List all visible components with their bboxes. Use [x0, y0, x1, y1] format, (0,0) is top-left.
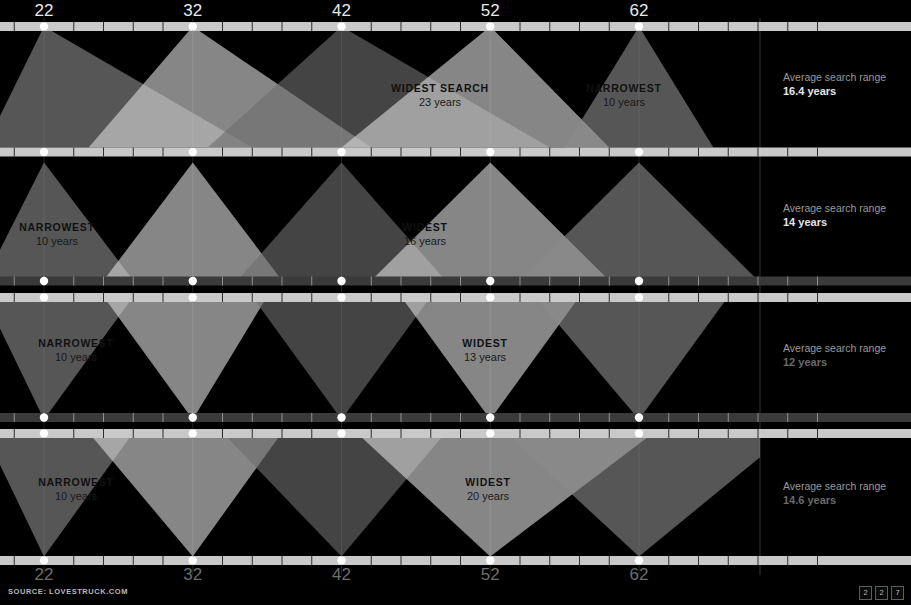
decade-marker-dot	[635, 556, 643, 564]
decade-marker-dot	[40, 429, 48, 437]
decade-marker-dot	[189, 429, 197, 437]
infographic-stage: 22324252622232425262WIDEST SEARCH23 year…	[0, 0, 911, 605]
decade-marker-dot	[189, 413, 197, 421]
page-digit: 7	[891, 586, 904, 600]
decade-marker-dot	[635, 22, 643, 30]
decade-marker-dot	[486, 556, 494, 564]
callout-title: NARROWEST	[38, 337, 114, 349]
decade-marker-dot	[337, 22, 345, 30]
decade-marker-dot	[486, 148, 494, 156]
callout-value: 13 years	[464, 351, 507, 363]
decade-marker-dot	[337, 148, 345, 156]
decade-marker-dot	[189, 556, 197, 564]
average-search-range-value: 12 years	[783, 356, 827, 368]
decade-marker-dot	[635, 413, 643, 421]
axis-tick-label-top: 32	[183, 1, 202, 20]
axis-tick-label-bottom: 62	[630, 565, 649, 584]
decade-marker-dot	[486, 413, 494, 421]
callout-value: 20 years	[467, 490, 510, 502]
decade-marker-dot	[189, 277, 197, 285]
callout-title: WIDEST	[465, 476, 510, 488]
callout-value: 16 years	[404, 235, 447, 247]
axis-between-3-4-dark	[0, 413, 911, 422]
axis-between-3-4	[0, 429, 911, 438]
age-range-chart: 22324252622232425262WIDEST SEARCH23 year…	[0, 0, 911, 605]
page-number-boxes: 2 2 7	[859, 586, 904, 600]
average-search-range-label: Average search range	[783, 342, 886, 354]
decade-marker-dot	[486, 293, 494, 301]
decade-marker-dot	[337, 293, 345, 301]
decade-marker-dot	[337, 429, 345, 437]
callout-title: WIDEST	[462, 337, 507, 349]
average-search-range-value: 16.4 years	[783, 85, 836, 97]
average-search-range-label: Average search range	[783, 71, 886, 83]
average-search-range-label: Average search range	[783, 202, 886, 214]
decade-marker-dot	[635, 293, 643, 301]
decade-marker-dot	[189, 293, 197, 301]
decade-marker-dot	[189, 22, 197, 30]
decade-marker-dot	[40, 22, 48, 30]
axis-between-1-2	[0, 148, 911, 157]
callout-title: WIDEST SEARCH	[391, 82, 489, 94]
decade-marker-dot	[189, 148, 197, 156]
decade-marker-dot	[337, 413, 345, 421]
decade-marker-dot	[486, 429, 494, 437]
average-search-range-value: 14 years	[783, 216, 827, 228]
page-digit: 2	[859, 586, 872, 600]
axis-tick-label-bottom: 52	[481, 565, 500, 584]
callout-value: 23 years	[419, 96, 462, 108]
decade-marker-dot	[40, 293, 48, 301]
axis-tick-label-top: 42	[332, 1, 351, 20]
callout-value: 10 years	[36, 235, 79, 247]
axis-between-2-3	[0, 293, 911, 302]
decade-marker-dot	[40, 413, 48, 421]
axis-tick-label-top: 22	[35, 1, 54, 20]
axis-top-panel-1	[0, 22, 911, 31]
page-digit: 2	[875, 586, 888, 600]
decade-marker-dot	[486, 277, 494, 285]
axis-tick-label-bottom: 22	[35, 565, 54, 584]
decade-marker-dot	[337, 556, 345, 564]
callout-value: 10 years	[603, 96, 646, 108]
average-search-range-value: 14.6 years	[783, 494, 836, 506]
decade-marker-dot	[40, 148, 48, 156]
decade-marker-dot	[40, 556, 48, 564]
average-search-range-label: Average search range	[783, 480, 886, 492]
decade-marker-dot	[486, 22, 494, 30]
decade-marker-dot	[40, 277, 48, 285]
callout-value: 10 years	[55, 490, 98, 502]
decade-marker-dot	[635, 429, 643, 437]
decade-marker-dot	[635, 148, 643, 156]
axis-between-2-3-dark	[0, 277, 911, 286]
decade-marker-dot	[635, 277, 643, 285]
callout-title: NARROWEST	[19, 221, 95, 233]
axis-bottom-panel-4	[0, 556, 911, 565]
callout-title: WIDEST	[402, 221, 447, 233]
axis-tick-label-top: 52	[481, 1, 500, 20]
axis-tick-label-top: 62	[630, 1, 649, 20]
axis-tick-label-bottom: 32	[183, 565, 202, 584]
callout-value: 10 years	[55, 351, 98, 363]
source-credit: SOURCE: LOVESTRUCK.COM	[8, 587, 128, 596]
callout-title: NARROWEST	[38, 476, 114, 488]
callout-title: NARROWEST	[586, 82, 662, 94]
decade-marker-dot	[337, 277, 345, 285]
axis-tick-label-bottom: 42	[332, 565, 351, 584]
